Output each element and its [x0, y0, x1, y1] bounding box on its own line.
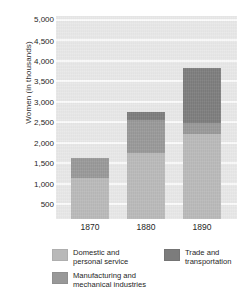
plot-area — [56, 16, 237, 219]
bar-segment-1870-domestic — [71, 178, 109, 219]
chart-legend: Domestic and personal service Trade and … — [52, 248, 247, 298]
y-tick-label-1500: 1,500 — [14, 160, 54, 168]
legend-label-trade: Trade and transportation — [185, 248, 231, 266]
bar-segment-1880-manufacturing — [127, 120, 165, 153]
legend-swatch-domestic-icon — [52, 249, 68, 261]
y-tick-label-4000: 4,000 — [14, 58, 54, 66]
x-tick-label-1890: 1890 — [179, 222, 225, 232]
legend-label-domestic: Domestic and personal service — [73, 248, 128, 266]
y-axis-tick-labels: 5,000 4,500 4,000 3,500 3,000 2,500 2,00… — [14, 16, 54, 222]
bar-stack-1880 — [127, 112, 165, 219]
stacked-bar-chart: Women (in thousands) 5,000 4,500 4,000 3… — [0, 0, 247, 304]
x-tick-label-1880: 1880 — [123, 222, 169, 232]
legend-item-trade: Trade and transportation — [164, 248, 231, 266]
y-tick-label-4500: 4,500 — [14, 38, 54, 46]
bar-segment-1890-domestic — [183, 134, 221, 219]
y-tick-label-500: 500 — [14, 201, 54, 209]
legend-item-manufacturing: Manufacturing and mechanical industries — [52, 271, 146, 289]
gridline-4000 — [56, 60, 237, 62]
y-tick-label-2000: 2,000 — [14, 140, 54, 148]
bar-segment-1880-trade — [127, 112, 165, 120]
bar-segment-1890-trade — [183, 68, 221, 123]
y-tick-label-1000: 1,000 — [14, 181, 54, 189]
gridline-5000 — [56, 19, 237, 21]
legend-label-manufacturing: Manufacturing and mechanical industries — [73, 271, 146, 289]
bar-segment-1890-manufacturing — [183, 123, 221, 134]
bar-segment-1880-domestic — [127, 153, 165, 219]
x-axis-tick-labels: 1870 1880 1890 — [56, 222, 237, 236]
bar-stack-1870 — [71, 158, 109, 219]
bar-stack-1890 — [183, 68, 221, 219]
legend-item-domestic: Domestic and personal service — [52, 248, 128, 266]
y-tick-label-2500: 2,500 — [14, 119, 54, 127]
y-tick-label-3500: 3,500 — [14, 78, 54, 86]
legend-swatch-trade-icon — [164, 249, 180, 261]
y-tick-label-5000: 5,000 — [14, 16, 54, 24]
x-tick-label-1870: 1870 — [67, 222, 113, 232]
gridline-4500 — [56, 39, 237, 41]
bar-segment-1870-manufacturing — [71, 158, 109, 178]
legend-swatch-manufacturing-icon — [52, 272, 68, 284]
y-tick-label-3000: 3,000 — [14, 99, 54, 107]
